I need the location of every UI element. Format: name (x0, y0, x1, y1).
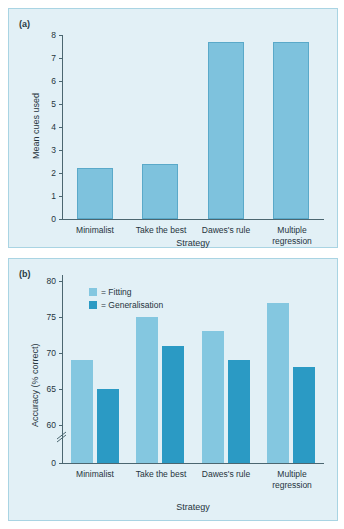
y-axis-break-icon (57, 429, 68, 442)
bar-b (162, 346, 184, 463)
bar-b (97, 389, 119, 463)
panel-a-label: (a) (19, 19, 30, 29)
y-tick-a (59, 150, 62, 151)
legend-item: = Fitting (89, 285, 163, 298)
y-tick-a (59, 58, 62, 59)
y-tick-a (59, 81, 62, 82)
panel-b: (b) Accuracy (% correct) Strategy 060657… (8, 258, 338, 521)
panel-b-label: (b) (19, 269, 31, 279)
y-tick-label-a: 0 (36, 214, 56, 224)
legend-item: = Generalisation (89, 298, 163, 311)
x-axis-line-b (62, 463, 324, 464)
bar-b (267, 303, 289, 463)
y-tick-label-a: 4 (36, 122, 56, 132)
figure-root: (a) Mean cues used Strategy 012345678 Mi… (0, 0, 344, 529)
legend-label: = Fitting (101, 287, 131, 297)
category-label-b: Multiple regression (259, 469, 325, 490)
y-tick-b (59, 317, 62, 318)
category-label-b: Take the best (128, 469, 194, 480)
y-tick-label-b: 60 (36, 420, 56, 430)
bar-a (142, 164, 178, 219)
category-label-a: Minimalist (62, 225, 128, 236)
y-tick-label-b: 80 (36, 276, 56, 286)
y-tick-b (59, 389, 62, 390)
legend-swatch-icon (89, 301, 97, 309)
y-axis-line-a (62, 35, 63, 219)
category-label-b: Dawes's rule (193, 469, 259, 480)
bar-b (136, 317, 158, 463)
y-tick-label-a: 3 (36, 145, 56, 155)
category-label-a: Multiple regression (259, 225, 325, 246)
y-tick-a (59, 127, 62, 128)
x-axis-title-b: Strategy (62, 502, 324, 512)
y-tick-label-a: 8 (36, 30, 56, 40)
y-tick-label-b: 70 (36, 348, 56, 358)
y-tick-a (59, 35, 62, 36)
category-label-a: Dawes's rule (193, 225, 259, 236)
y-tick-b (59, 281, 62, 282)
legend-label: = Generalisation (101, 300, 163, 310)
bar-b (293, 367, 315, 463)
y-tick-label-b: 65 (36, 384, 56, 394)
y-tick-label-a: 1 (36, 191, 56, 201)
bar-a (273, 42, 309, 219)
y-tick-label-b: 0 (36, 458, 56, 468)
y-tick-b (59, 425, 62, 426)
bar-a (77, 168, 113, 219)
category-label-b: Minimalist (62, 469, 128, 480)
y-tick-label-a: 6 (36, 76, 56, 86)
y-tick-a (59, 173, 62, 174)
category-label-a: Take the best (128, 225, 194, 236)
y-tick-label-a: 2 (36, 168, 56, 178)
bar-b (228, 360, 250, 463)
y-tick-a (59, 219, 62, 220)
y-tick-a (59, 104, 62, 105)
y-tick-label-a: 7 (36, 53, 56, 63)
y-tick-a (59, 196, 62, 197)
y-tick-b (59, 463, 62, 464)
bar-b (202, 331, 224, 463)
legend-b: = Fitting= Generalisation (89, 285, 163, 311)
bar-b (71, 360, 93, 463)
bar-a (208, 42, 244, 219)
x-axis-line-a (62, 219, 324, 220)
y-tick-label-b: 75 (36, 312, 56, 322)
y-tick-label-a: 5 (36, 99, 56, 109)
legend-swatch-icon (89, 288, 97, 296)
y-tick-b (59, 353, 62, 354)
panel-a: (a) Mean cues used Strategy 012345678 Mi… (8, 8, 338, 248)
